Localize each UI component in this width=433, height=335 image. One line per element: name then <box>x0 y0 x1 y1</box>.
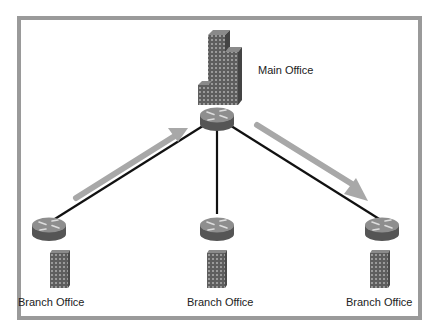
branch-building-icon <box>50 250 70 288</box>
branch-building-icon <box>207 250 227 288</box>
branch-office-label-right: Branch Office <box>346 296 412 308</box>
arrow-main-to-branch <box>257 125 368 201</box>
branch-office-label-left: Branch Office <box>18 296 84 308</box>
main-office-label: Main Office <box>258 64 313 76</box>
router-icon <box>365 218 399 242</box>
branch-office-label-center: Branch Office <box>187 296 253 308</box>
office-tower-icon <box>198 30 242 105</box>
network-diagram <box>0 0 433 335</box>
branch-building-icon <box>370 250 390 288</box>
arrow-branch-to-main <box>76 128 188 198</box>
router-icon <box>200 218 234 242</box>
router-icon <box>32 218 66 242</box>
router-icon <box>200 108 234 132</box>
